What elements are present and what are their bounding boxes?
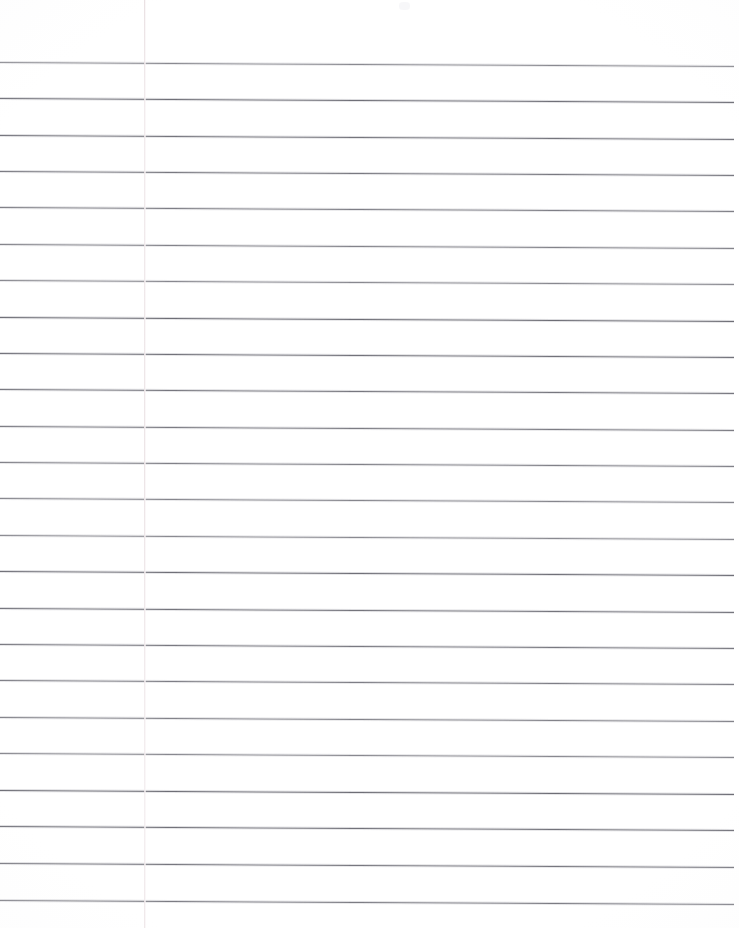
ruled-line bbox=[0, 280, 734, 285]
ruled-line bbox=[0, 717, 734, 722]
ruled-line bbox=[0, 826, 734, 831]
ruled-line bbox=[0, 389, 734, 394]
ruled-line bbox=[0, 207, 734, 212]
ruled-line bbox=[0, 790, 734, 795]
ruled-line bbox=[0, 680, 734, 685]
ruled-line bbox=[0, 98, 734, 103]
ruled-line bbox=[0, 900, 734, 905]
scanned-page bbox=[0, 0, 739, 928]
ruled-line bbox=[0, 244, 734, 249]
ruled-line bbox=[0, 135, 734, 140]
ruled-line bbox=[0, 426, 734, 431]
vertical-margin-rule bbox=[144, 0, 145, 928]
ruled-line bbox=[0, 317, 734, 322]
ruled-line bbox=[0, 571, 734, 576]
ruled-line bbox=[0, 863, 734, 868]
ruled-line bbox=[0, 498, 734, 503]
ruled-line bbox=[0, 535, 734, 540]
ruled-line bbox=[0, 171, 734, 176]
ruled-line bbox=[0, 62, 734, 67]
ruled-line bbox=[0, 753, 734, 758]
ruled-line bbox=[0, 462, 734, 467]
ruled-line bbox=[0, 353, 734, 358]
ruled-line bbox=[0, 644, 734, 649]
ruled-line bbox=[0, 608, 734, 613]
ruled-lines-layer bbox=[0, 0, 739, 928]
